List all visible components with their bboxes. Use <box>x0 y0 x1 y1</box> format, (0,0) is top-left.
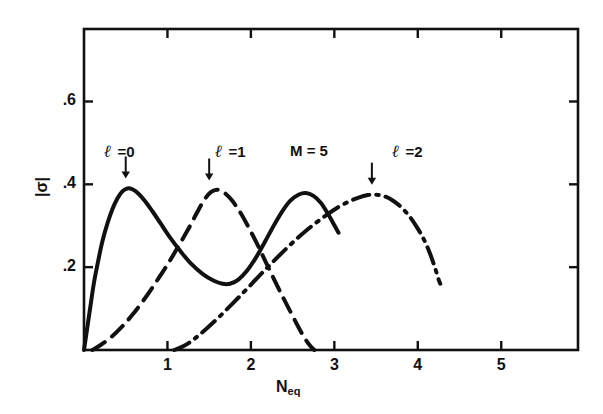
annotation-l0: ℓ =0 <box>104 142 135 162</box>
annotation-l1: ℓ =1 <box>215 142 246 162</box>
arrow-l-1 <box>205 159 213 181</box>
annotation-l2-text: =2 <box>401 143 422 160</box>
ell-symbol-0: ℓ <box>104 142 113 161</box>
annotation-l0-text: =0 <box>113 143 134 160</box>
annotation-l2: ℓ =2 <box>392 142 423 162</box>
x-axis-title: Neq <box>276 378 300 397</box>
ell-symbol-2: ℓ <box>392 142 401 161</box>
x-tick-label-4: 4 <box>403 356 433 374</box>
y-tick-label-p6: .6 <box>42 91 76 109</box>
curve-l-2 <box>174 195 440 350</box>
axes-frame <box>84 29 578 350</box>
x-tick-label-1: 1 <box>152 356 182 374</box>
plot-canvas <box>0 0 603 414</box>
x-axis-title-subscript: eq <box>288 385 301 397</box>
y-tick-label-p4: .4 <box>42 174 76 192</box>
x-tick-label-5: 5 <box>486 356 516 374</box>
figure-root: |σ| Neq ℓ =0 ℓ =1 M = 5 ℓ =2 12345.2.4.6 <box>0 0 603 414</box>
data-curves <box>84 188 440 350</box>
ell-symbol-1: ℓ <box>215 142 224 161</box>
axis-ticks <box>84 29 578 350</box>
arrow-l-2 <box>368 163 376 185</box>
x-tick-label-2: 2 <box>236 356 266 374</box>
annotation-l1-text: =1 <box>224 143 245 160</box>
annotation-arrows <box>122 156 377 184</box>
x-tick-label-3: 3 <box>319 356 349 374</box>
annotation-parameter-m: M = 5 <box>290 142 328 159</box>
y-tick-label-p2: .2 <box>42 257 76 275</box>
x-axis-title-main: N <box>276 378 288 395</box>
